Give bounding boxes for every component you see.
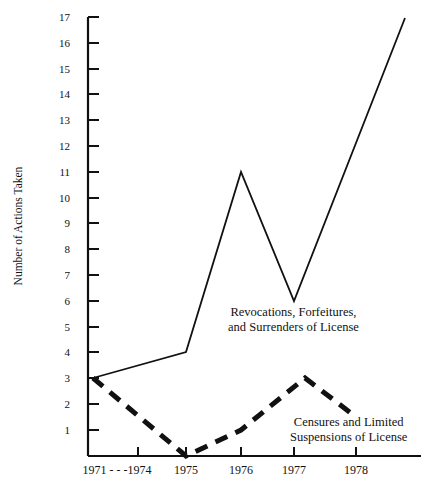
y-tick-label: 16 bbox=[48, 38, 70, 49]
y-tick-label: 4 bbox=[48, 347, 70, 358]
y-tick-label: 10 bbox=[48, 193, 70, 204]
y-tick-label: 6 bbox=[48, 296, 70, 307]
x-tick-label-1977: 1977 bbox=[268, 464, 320, 476]
y-tick-label: 5 bbox=[48, 322, 70, 333]
y-tick-label: 12 bbox=[48, 141, 70, 152]
y-tick-label: 9 bbox=[48, 218, 70, 229]
series-annotation-revocations: Revocations, Forfeitures, and Surrenders… bbox=[228, 305, 359, 335]
annotation-line: Suspensions of License bbox=[290, 430, 407, 445]
y-tick-label: 3 bbox=[48, 373, 70, 384]
y-tick-label: 8 bbox=[48, 244, 70, 255]
series-annotation-censures: Censures and Limited Suspensions of Lice… bbox=[290, 415, 407, 445]
y-tick-label: 15 bbox=[48, 64, 70, 75]
line-chart: 17 16 15 14 13 12 11 10 9 8 7 6 5 4 3 2 … bbox=[0, 0, 438, 494]
y-tick-label: 7 bbox=[48, 270, 70, 281]
y-axis-ticks bbox=[88, 17, 99, 430]
y-tick-label: 13 bbox=[48, 115, 70, 126]
x-tick-label-1976: 1976 bbox=[215, 464, 267, 476]
x-tick-label-1975: 1975 bbox=[160, 464, 212, 476]
y-axis-label: Number of Actions Taken bbox=[12, 156, 24, 296]
x-tick-label-1978: 1978 bbox=[330, 464, 382, 476]
y-tick-label: 14 bbox=[48, 89, 70, 100]
y-tick-label: 1 bbox=[48, 425, 70, 436]
annotation-line: and Surrenders of License bbox=[228, 320, 359, 335]
annotation-line: Censures and Limited bbox=[290, 415, 407, 430]
y-tick-label: 17 bbox=[48, 12, 70, 23]
y-tick-label: 11 bbox=[48, 167, 70, 178]
annotation-line: Revocations, Forfeitures, bbox=[228, 305, 359, 320]
x-axis-ticks bbox=[138, 447, 356, 456]
y-tick-label: 2 bbox=[48, 399, 70, 410]
